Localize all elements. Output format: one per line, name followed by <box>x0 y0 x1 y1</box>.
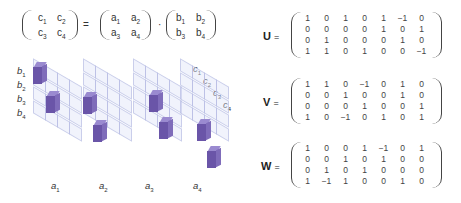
c-matrix-left-paren <box>22 10 32 40</box>
matrix-u-body: 10101−10 0000101 0100010 110100−1 <box>298 13 431 57</box>
equals-sign: = <box>83 19 89 30</box>
row-label-b1: b1 <box>17 65 26 78</box>
c1-entry: c1 <box>38 12 47 25</box>
a1-entry: a1 <box>111 12 120 25</box>
cell: 1 <box>412 143 431 154</box>
cell: 0 <box>355 13 374 24</box>
cell: 1 <box>317 79 336 90</box>
cell: 0 <box>374 165 393 176</box>
cell: 1 <box>374 154 393 165</box>
cell: 0 <box>298 165 317 176</box>
cell: 0 <box>374 90 393 101</box>
cell: 0 <box>355 90 374 101</box>
cell: 1 <box>298 143 317 154</box>
a3-entry: a3 <box>111 27 120 40</box>
cell: 0 <box>336 165 355 176</box>
cell: 1 <box>412 112 431 123</box>
active-cube <box>159 117 173 139</box>
cell: 0 <box>393 165 412 176</box>
cell: 0 <box>412 79 431 90</box>
b3-entry: b3 <box>176 27 185 40</box>
cell: 0 <box>412 13 431 24</box>
cell: 0 <box>317 24 336 35</box>
cell: 1 <box>317 46 336 57</box>
slab-label-a1: a1 <box>51 180 60 193</box>
row-label-b4: b4 <box>17 107 26 120</box>
cell: 0 <box>336 101 355 112</box>
slab-label-a3: a3 <box>145 180 154 193</box>
cell: 0 <box>317 90 336 101</box>
matrix-v-label: V = <box>263 96 279 108</box>
cell: 0 <box>298 24 317 35</box>
cell: 1 <box>374 13 393 24</box>
cell: 0 <box>374 176 393 187</box>
cell: 1 <box>336 154 355 165</box>
b-matrix-left-paren <box>166 10 176 40</box>
cell: 1 <box>355 46 374 57</box>
active-cube <box>33 62 47 84</box>
cell: 0 <box>355 112 374 123</box>
active-cube <box>83 92 97 114</box>
c4-entry: c4 <box>57 27 66 40</box>
cell: 0 <box>336 35 355 46</box>
cell: 0 <box>317 13 336 24</box>
cell: 1 <box>298 79 317 90</box>
cell: 0 <box>393 143 412 154</box>
a-matrix-left-paren <box>100 10 110 40</box>
slab-label-a4: a4 <box>193 180 202 193</box>
cell: 0 <box>355 24 374 35</box>
active-cube <box>197 119 211 141</box>
cell: 1 <box>374 24 393 35</box>
cell: 0 <box>317 112 336 123</box>
cell: 0 <box>374 101 393 112</box>
cell: −1 <box>393 13 412 24</box>
cell: 1 <box>317 165 336 176</box>
cell: 0 <box>355 154 374 165</box>
cell: 0 <box>412 154 431 165</box>
cell: 1 <box>393 35 412 46</box>
cell: 0 <box>298 90 317 101</box>
matrix-w-right-paren <box>432 142 442 188</box>
c-matrix-right-paren <box>68 10 78 40</box>
cell: 1 <box>412 101 431 112</box>
row-label-b2: b2 <box>17 79 26 92</box>
cell: −1 <box>317 176 336 187</box>
cell: 0 <box>336 143 355 154</box>
b1-entry: b1 <box>176 12 185 25</box>
cell: 0 <box>355 176 374 187</box>
c3-entry: c3 <box>38 27 47 40</box>
matrix-w-body: 1001−101 0010100 0101000 1−110010 <box>298 143 431 187</box>
cell: 1 <box>393 90 412 101</box>
cell: 0 <box>374 46 393 57</box>
a2-entry: a2 <box>131 12 140 25</box>
cell: 1 <box>336 90 355 101</box>
slab-label-a2: a2 <box>99 180 108 193</box>
matrix-v-body: 110−1010 0010010 0001001 10−10101 <box>298 79 431 123</box>
cell: 1 <box>298 46 317 57</box>
b2-entry: b2 <box>196 12 205 25</box>
cell: 1 <box>298 112 317 123</box>
cell: 1 <box>298 176 317 187</box>
active-cube <box>46 91 60 113</box>
cell: −1 <box>374 143 393 154</box>
cell: 1 <box>393 176 412 187</box>
cell: 0 <box>393 46 412 57</box>
cell: 1 <box>336 176 355 187</box>
cell: 1 <box>355 165 374 176</box>
cell: 0 <box>355 35 374 46</box>
cell: 0 <box>336 79 355 90</box>
cell: 0 <box>298 101 317 112</box>
cell: 0 <box>393 112 412 123</box>
cell: −1 <box>336 112 355 123</box>
matrix-u-label: U = <box>263 30 279 42</box>
cell: 0 <box>393 154 412 165</box>
active-cube <box>207 146 221 168</box>
cell: 0 <box>412 165 431 176</box>
cell: 0 <box>298 154 317 165</box>
cell: 0 <box>412 90 431 101</box>
cell: 0 <box>412 35 431 46</box>
a4-entry: a4 <box>131 27 140 40</box>
dot-operator: · <box>158 19 161 30</box>
cell: 0 <box>317 143 336 154</box>
cell: 0 <box>317 101 336 112</box>
